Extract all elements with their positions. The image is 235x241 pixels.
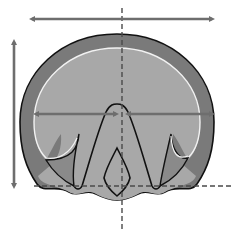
hoof-diagram <box>0 0 235 241</box>
